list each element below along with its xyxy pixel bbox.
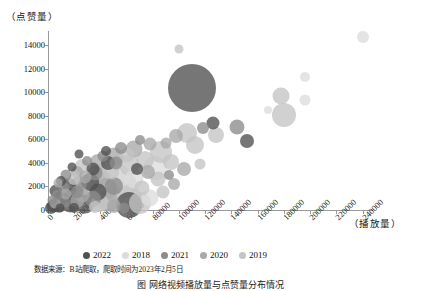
scatter-bubble bbox=[175, 44, 184, 53]
legend-label: 2020 bbox=[210, 250, 228, 260]
legend-item-2020[interactable]: 2020 bbox=[200, 250, 228, 260]
y-tick-label: 10000 bbox=[5, 87, 45, 97]
y-tick-label: 8000 bbox=[5, 111, 45, 121]
legend-item-2021[interactable]: 2021 bbox=[161, 250, 189, 260]
y-tick-label: 12000 bbox=[5, 64, 45, 74]
y-tick-label: 14000 bbox=[5, 40, 45, 50]
scatter-bubble bbox=[144, 138, 157, 151]
legend-label: 2021 bbox=[171, 250, 189, 260]
scatter-bubble bbox=[101, 146, 111, 156]
scatter-bubble bbox=[273, 87, 290, 104]
scatter-bubble bbox=[272, 103, 296, 127]
scatter-bubble bbox=[54, 178, 63, 187]
scatter-bubble bbox=[69, 203, 79, 213]
scatter-bubble bbox=[164, 170, 174, 180]
scatter-bubble bbox=[157, 186, 170, 199]
scatter-bubble bbox=[169, 129, 183, 143]
scatter-bubble bbox=[160, 137, 171, 148]
scatter-bubble bbox=[240, 134, 254, 148]
source-note: 数据来源：B站爬取，爬取时间为2023年2月5日 bbox=[34, 263, 183, 274]
scatter-bubble bbox=[55, 204, 64, 213]
scatter-bubble bbox=[168, 178, 180, 190]
legend-item-2018[interactable]: 2018 bbox=[122, 250, 150, 260]
legend-dot-icon bbox=[83, 252, 90, 259]
legend-label: 2022 bbox=[93, 250, 111, 260]
scatter-bubble bbox=[135, 180, 150, 195]
scatter-bubble bbox=[131, 163, 143, 175]
scatter-plot-area bbox=[48, 31, 373, 210]
scatter-bubble bbox=[186, 136, 204, 154]
legend-label: 2019 bbox=[249, 250, 267, 260]
legend-dot-icon bbox=[200, 252, 207, 259]
scatter-bubble bbox=[177, 162, 191, 176]
scatter-bubble bbox=[70, 185, 83, 198]
scatter-bubble bbox=[119, 202, 130, 213]
legend-label: 2018 bbox=[132, 250, 150, 260]
legend-dot-icon bbox=[122, 252, 129, 259]
y-tick-label: 4000 bbox=[5, 158, 45, 168]
scatter-bubble bbox=[89, 201, 101, 213]
y-tick-label: 0 bbox=[5, 205, 45, 215]
figure-caption: 图 网络视频播放量与点赞量分布情况 bbox=[0, 278, 421, 291]
legend-dot-icon bbox=[239, 252, 246, 259]
scatter-bubble bbox=[195, 159, 206, 170]
scatter-bubble bbox=[75, 150, 84, 159]
scatter-bubble bbox=[264, 106, 272, 114]
scatter-bubble bbox=[105, 177, 123, 195]
scatter-bubble bbox=[67, 163, 76, 172]
scatter-bubble bbox=[47, 195, 56, 204]
scatter-bubble bbox=[300, 72, 310, 82]
x-axis-label: （播放量） bbox=[349, 216, 401, 230]
scatter-bubble bbox=[197, 122, 209, 134]
scatter-bubble bbox=[168, 64, 216, 112]
scatter-bubble bbox=[135, 135, 145, 145]
scatter-bubble bbox=[110, 156, 123, 169]
scatter-bubble bbox=[299, 95, 310, 106]
y-tick-label: 6000 bbox=[5, 134, 45, 144]
scatter-bubble bbox=[82, 156, 92, 166]
y-axis-label: （点赞量） bbox=[6, 9, 58, 23]
scatter-bubble bbox=[229, 119, 244, 134]
legend-item-2019[interactable]: 2019 bbox=[239, 250, 267, 260]
scatter-bubble bbox=[61, 188, 72, 199]
scatter-bubble bbox=[357, 31, 369, 43]
chart-legend: 20222018202120202019 bbox=[83, 250, 267, 260]
legend-item-2022[interactable]: 2022 bbox=[83, 250, 111, 260]
legend-dot-icon bbox=[161, 252, 168, 259]
y-tick-label: 2000 bbox=[5, 181, 45, 191]
scatter-bubble bbox=[115, 142, 127, 154]
